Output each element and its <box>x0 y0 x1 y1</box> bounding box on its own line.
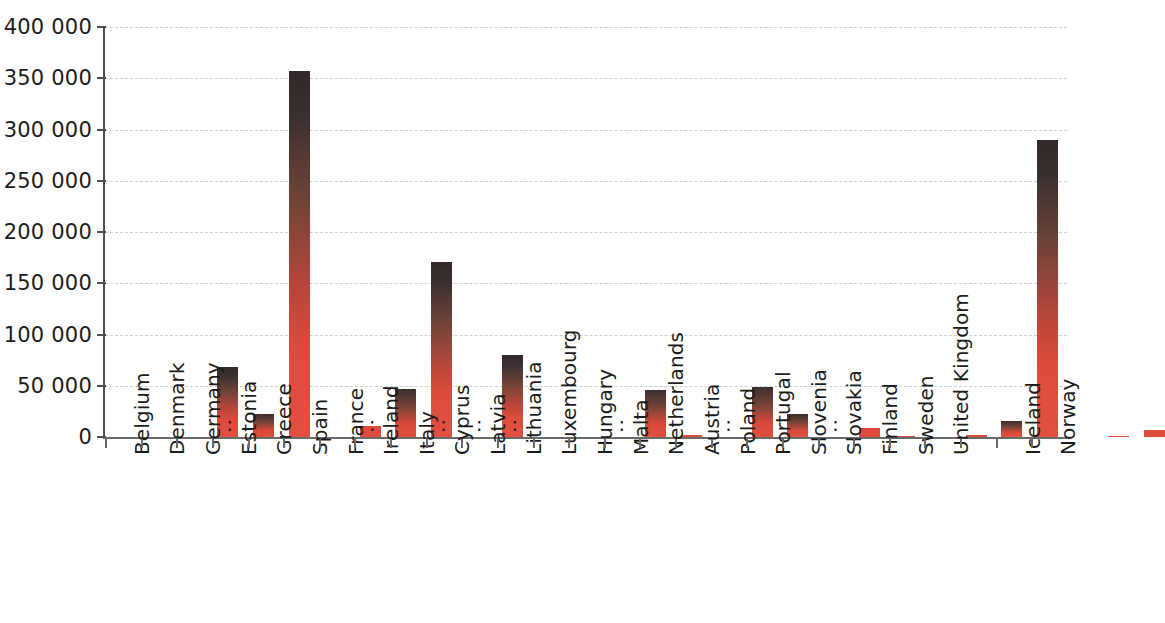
gridline <box>105 232 1067 233</box>
x-axis-tick-label: Luxembourg <box>557 329 581 455</box>
x-axis-tick-mark <box>853 439 855 448</box>
x-axis-tick-mark <box>248 439 250 448</box>
y-axis-tick-label: 0 <box>78 425 92 449</box>
x-axis-tick-mark <box>533 439 535 448</box>
x-axis-tick-mark <box>889 439 891 448</box>
x-axis-tick-mark <box>461 439 463 448</box>
gridline <box>105 130 1067 131</box>
y-axis-tick-mark <box>97 180 106 182</box>
bar[interactable] <box>289 71 310 437</box>
gridline <box>105 181 1067 182</box>
not-available-marker: : <box>369 415 375 434</box>
not-available-marker: : <box>725 415 731 434</box>
x-axis-tick-mark <box>176 439 178 448</box>
x-axis-tick-mark <box>354 439 356 448</box>
x-axis-tick-mark <box>568 439 570 448</box>
y-axis-tick-mark <box>97 385 106 387</box>
y-axis-tick-label: 250 000 <box>4 169 92 193</box>
x-axis-tick-mark <box>141 439 143 448</box>
y-axis-tick-label: 300 000 <box>4 118 92 142</box>
bar[interactable] <box>1001 421 1022 437</box>
y-axis-tick-label: 100 000 <box>4 323 92 347</box>
x-axis-tick-label: United Kingdom <box>949 293 973 455</box>
y-axis-tick-mark <box>97 282 106 284</box>
not-available-marker: : <box>618 415 624 434</box>
x-axis-tick-mark <box>996 439 998 448</box>
x-axis-tick-label: Norway <box>1056 379 1080 455</box>
y-axis-tick-label: 350 000 <box>4 66 92 90</box>
y-axis-tick-label: 50 000 <box>17 374 92 398</box>
x-axis-tick-mark <box>283 439 285 448</box>
gridline <box>105 78 1067 79</box>
x-axis-tick-mark <box>675 439 677 448</box>
not-available-marker: : <box>512 415 518 434</box>
x-axis-tick-mark <box>212 439 214 448</box>
bar[interactable] <box>1108 436 1129 437</box>
y-axis-tick-mark <box>97 334 106 336</box>
x-axis-tick-mark <box>782 439 784 448</box>
not-available-marker: : <box>440 415 446 434</box>
x-axis-tick-mark <box>639 439 641 448</box>
gridline <box>105 283 1067 284</box>
y-axis-tick-mark <box>97 231 106 233</box>
gridline <box>105 27 1067 28</box>
bar[interactable] <box>1144 430 1165 437</box>
y-axis-tick-mark <box>97 129 106 131</box>
y-axis-tick-mark <box>97 77 106 79</box>
x-axis-tick-mark <box>924 439 926 448</box>
y-axis-tick-mark <box>97 26 106 28</box>
x-axis-tick-mark <box>746 439 748 448</box>
y-axis-tick-label: 200 000 <box>4 220 92 244</box>
y-axis-tick-labels: 050 000100 000150 000200 000250 000300 0… <box>0 0 100 623</box>
not-available-marker: : <box>832 415 838 434</box>
x-axis-tick-mark <box>1031 439 1033 448</box>
x-axis-tick-label: Netherlands <box>664 332 688 455</box>
not-available-marker: : <box>227 415 233 434</box>
gridline <box>105 335 1067 336</box>
x-axis-tick-mark <box>711 439 713 448</box>
x-axis-tick-mark <box>105 439 107 448</box>
x-axis-tick-mark <box>497 439 499 448</box>
y-axis-tick-label: 400 000 <box>4 15 92 39</box>
not-available-marker: : <box>476 415 482 434</box>
x-axis-tick-mark <box>319 439 321 448</box>
x-axis-tick-mark <box>426 439 428 448</box>
y-axis-tick-label: 150 000 <box>4 271 92 295</box>
x-axis-tick-mark <box>604 439 606 448</box>
x-axis-tick-mark <box>960 439 962 448</box>
x-axis-tick-mark <box>818 439 820 448</box>
x-axis-tick-label: Italy <box>415 411 439 455</box>
x-axis-tick-mark <box>390 439 392 448</box>
